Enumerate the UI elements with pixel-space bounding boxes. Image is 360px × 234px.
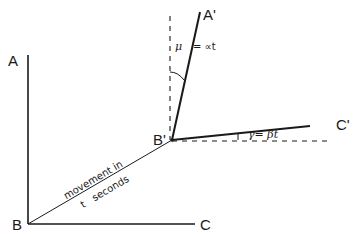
line-BprimeAprime <box>172 12 200 140</box>
label-A: A <box>8 52 18 69</box>
label-B: B <box>12 216 22 233</box>
gamma-expression: γ= βt <box>248 128 279 141</box>
line-BBprime <box>28 140 172 224</box>
junction-Bprime <box>170 138 174 142</box>
label-C: C <box>200 216 211 233</box>
line-BprimeCprime <box>172 126 310 140</box>
mu-expression: = ∝t <box>193 41 216 52</box>
angle-arc-mu <box>170 72 184 80</box>
label-Bprime: B' <box>153 131 166 148</box>
rotation-diagram: A B C A' B' C' μ = ∝t γ= βt movement in … <box>0 0 360 234</box>
mu-symbol: μ <box>175 40 182 53</box>
label-Aprime: A' <box>203 6 216 23</box>
label-Cprime: C' <box>336 116 350 133</box>
